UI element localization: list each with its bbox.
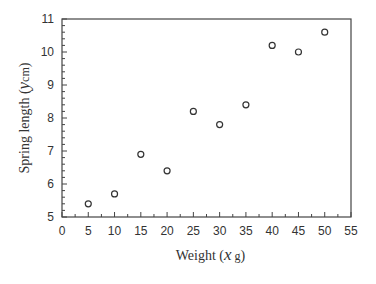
x-tick-label: 55 [344, 224, 358, 238]
data-point [322, 29, 328, 35]
data-point [295, 49, 301, 55]
scatter-chart: 567891011 0510152025303540455055 Weight … [0, 0, 376, 284]
data-point [164, 168, 170, 174]
x-tick-label: 25 [187, 224, 201, 238]
data-point [85, 201, 91, 207]
data-point [269, 42, 275, 48]
plot-frame [62, 19, 351, 217]
data-point [112, 191, 118, 197]
x-axis: 0510152025303540455055 [59, 212, 358, 238]
data-point [138, 151, 144, 157]
x-tick-label: 20 [160, 224, 174, 238]
x-tick-label: 40 [266, 224, 280, 238]
x-tick-label: 5 [85, 224, 92, 238]
x-tick-label: 10 [108, 224, 122, 238]
y-tick-label: 9 [47, 78, 54, 92]
y-axis-title: Spring length (ycm) [14, 62, 33, 173]
x-tick-label: 15 [134, 224, 148, 238]
x-tick-label: 45 [292, 224, 306, 238]
y-tick-label: 7 [47, 144, 54, 158]
y-tick-label: 8 [47, 111, 54, 125]
y-tick-label: 6 [47, 177, 54, 191]
y-tick-label: 5 [47, 210, 54, 224]
data-point [243, 102, 249, 108]
x-axis-title: Weight (x g) [176, 245, 246, 264]
data-point [190, 108, 196, 114]
y-tick-label: 11 [42, 12, 55, 26]
y-axis: 567891011 [41, 12, 67, 224]
y-tick-label: 10 [41, 45, 55, 59]
x-tick-label: 0 [59, 224, 66, 238]
x-tick-label: 50 [318, 224, 332, 238]
data-point [217, 122, 223, 128]
data-points [85, 29, 327, 207]
x-tick-label: 30 [213, 224, 227, 238]
x-tick-label: 35 [239, 224, 253, 238]
